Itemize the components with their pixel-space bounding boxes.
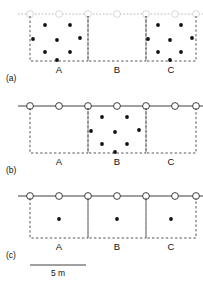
quadrat-label-B: B [114, 156, 120, 167]
point-C-1 [156, 23, 160, 27]
quadrat-label-A: A [56, 241, 63, 252]
scale-bar-label: 5 m [51, 268, 65, 278]
transect-node-4 [114, 103, 121, 110]
quadrat-box-C [146, 108, 196, 153]
panel-tag-b: (b) [6, 165, 17, 175]
quadrat-label-A: A [56, 156, 63, 167]
transect-node-6 [172, 103, 179, 110]
panel-c: ABC(c) [6, 193, 203, 260]
point-A-1 [43, 23, 47, 27]
point-B-7 [125, 142, 129, 146]
point-C-4 [168, 38, 172, 42]
point-B-4 [113, 130, 117, 134]
transect-node-2 [56, 11, 63, 18]
point-A-6 [43, 50, 47, 54]
point-A-2 [68, 23, 72, 27]
quadrat-label-A: A [56, 64, 63, 75]
point-A-7 [68, 50, 72, 54]
point-C-6 [156, 50, 160, 54]
quadrat-label-B: B [114, 64, 120, 75]
point-C-5 [190, 36, 194, 40]
point-B-5 [137, 128, 141, 132]
quadrat-label-C: C [168, 241, 175, 252]
point-B-2 [125, 115, 129, 119]
point-A-5 [78, 36, 82, 40]
quadrat-label-B: B [114, 241, 120, 252]
point-C-8 [168, 58, 172, 62]
transect-node-4 [114, 11, 121, 18]
quadrat-box-A [30, 108, 88, 153]
point-B-3 [89, 129, 93, 133]
scale-bar-group: 5 m [30, 265, 86, 278]
figure-container: ABC(a)ABC(b)ABC(c)5 m [0, 0, 203, 285]
quadrat-label-C: C [168, 156, 175, 167]
point-B-6 [100, 142, 104, 146]
point-C-7 [179, 50, 183, 54]
panel-b: ABC(b) [6, 103, 203, 175]
transect-node-4 [114, 193, 121, 200]
transect-node-6 [172, 11, 179, 18]
quadrat-label-C: C [168, 64, 175, 75]
transect-node-6 [172, 193, 179, 200]
panel-tag-c: (c) [6, 250, 16, 260]
point-A-4 [55, 38, 59, 42]
quadrat-box-B [88, 16, 146, 61]
point-C-2 [179, 23, 183, 27]
figure-canvas: ABC(a)ABC(b)ABC(c)5 m [0, 0, 203, 285]
transect-node-2 [56, 193, 63, 200]
point-C-3 [146, 37, 150, 41]
point-B-8 [113, 150, 117, 154]
panel-a: ABC(a) [6, 11, 203, 83]
point-C-1 [169, 217, 173, 221]
panel-tag-a: (a) [6, 73, 17, 83]
point-B-1 [100, 115, 104, 119]
point-A-3 [31, 37, 35, 41]
point-B-1 [115, 217, 119, 221]
point-A-1 [57, 217, 61, 221]
transect-node-2 [56, 103, 63, 110]
point-A-8 [55, 58, 59, 62]
